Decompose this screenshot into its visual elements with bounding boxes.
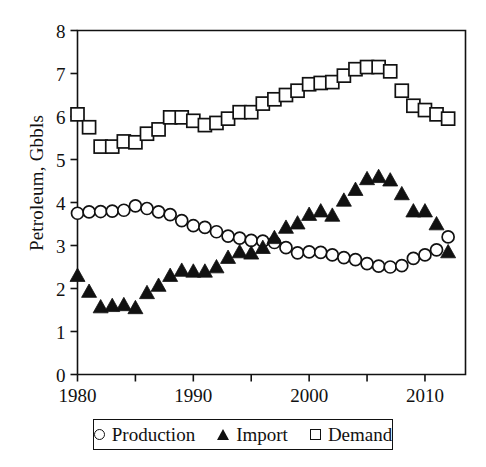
y-tick-label: 2 <box>56 279 66 300</box>
legend-label-production: Production <box>112 424 195 446</box>
legend-item-import[interactable]: Import <box>217 424 288 446</box>
x-tick-label: 2010 <box>406 385 444 406</box>
x-tick-label: 1990 <box>174 385 212 406</box>
legend-label-import: Import <box>236 424 288 446</box>
y-tick-label: 4 <box>56 193 66 214</box>
y-tick-label: 8 <box>56 21 66 42</box>
petroleum-chart-figure: Petroleum, Gbbls 01234567819801990200020… <box>0 0 486 467</box>
series-demand <box>71 61 455 154</box>
y-tick-label: 0 <box>56 365 66 386</box>
x-tick-label: 1980 <box>59 385 97 406</box>
plot-area: 0123456781980199020002010 <box>0 0 486 467</box>
open-square-icon <box>310 429 321 440</box>
y-tick-label: 3 <box>56 236 66 257</box>
series-import <box>70 169 456 314</box>
open-circle-icon <box>94 429 105 440</box>
y-tick-label: 1 <box>56 322 66 343</box>
filled-triangle-icon <box>217 429 229 440</box>
y-tick-label: 7 <box>56 64 66 85</box>
y-tick-label: 5 <box>56 150 66 171</box>
legend-item-production[interactable]: Production <box>94 424 195 446</box>
legend-item-demand[interactable]: Demand <box>310 424 392 446</box>
series-production <box>72 200 455 273</box>
legend-label-demand: Demand <box>328 424 392 446</box>
x-tick-label: 2000 <box>290 385 328 406</box>
chart-legend: Production Import Demand <box>93 419 393 450</box>
y-tick-label: 6 <box>56 107 66 128</box>
